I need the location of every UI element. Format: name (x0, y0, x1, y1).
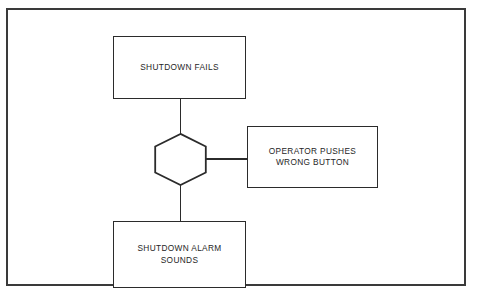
gate-hexagon[interactable] (154, 133, 207, 186)
connector-gate-to-operator (206, 158, 248, 160)
node-operator-pushes-wrong-button-label: OPERATOR PUSHES WRONG BUTTON (269, 146, 356, 169)
node-operator-pushes-wrong-button[interactable]: OPERATOR PUSHES WRONG BUTTON (247, 126, 378, 188)
connector-gate-to-shutdown-alarm (180, 185, 182, 222)
diagram-canvas: SHUTDOWN FAILS OPERATOR PUSHES WRONG BUT… (0, 0, 477, 295)
connector-shutdown-fails-to-gate (180, 98, 182, 134)
node-shutdown-alarm-sounds-label: SHUTDOWN ALARM SOUNDS (137, 243, 221, 266)
node-shutdown-fails[interactable]: SHUTDOWN FAILS (113, 36, 246, 99)
hexagon-icon (154, 133, 207, 186)
node-shutdown-fails-label: SHUTDOWN FAILS (140, 62, 219, 73)
node-shutdown-alarm-sounds[interactable]: SHUTDOWN ALARM SOUNDS (113, 221, 246, 288)
diagram-frame: SHUTDOWN FAILS OPERATOR PUSHES WRONG BUT… (6, 8, 466, 286)
